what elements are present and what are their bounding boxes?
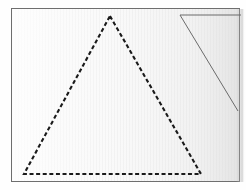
figure-drawing (0, 0, 246, 190)
screenshot-canvas: Dashed triangle drawn on lined paper (0, 0, 246, 190)
paper-edge-shadow (236, 9, 245, 182)
paper-sheet (11, 8, 245, 182)
paper-shading (11, 8, 240, 182)
